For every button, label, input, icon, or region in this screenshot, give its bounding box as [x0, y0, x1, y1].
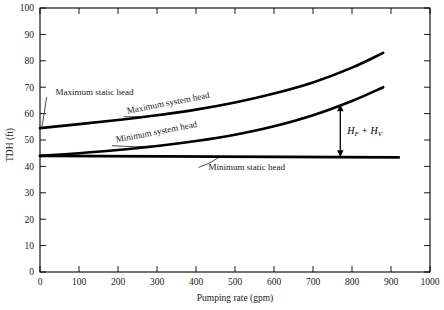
- x-tick-label: 1000: [421, 277, 440, 287]
- y-axis-tick-labels: 0102030405060708090100: [20, 3, 35, 277]
- y-tick-label: 30: [25, 188, 35, 198]
- y-tick-label: 0: [29, 267, 34, 277]
- y-tick-label: 10: [25, 241, 35, 251]
- x-axis-title: Pumping rate (gpm): [197, 293, 274, 304]
- y-tick-label: 70: [25, 83, 35, 93]
- x-tick-label: 900: [384, 277, 399, 287]
- annotation-min-static-head: Minimum static head: [208, 162, 285, 172]
- y-tick-label: 100: [20, 3, 35, 13]
- x-axis-ticks: [40, 266, 430, 272]
- x-tick-label: 700: [306, 277, 321, 287]
- x-tick-label: 100: [72, 277, 87, 287]
- annotation-head-loss: HF + HV: [346, 125, 383, 139]
- x-tick-label: 400: [189, 277, 204, 287]
- x-tick-label: 800: [345, 277, 360, 287]
- y-tick-label: 80: [25, 56, 35, 66]
- leader-max-static-head: [42, 97, 47, 127]
- x-tick-label: 0: [38, 277, 43, 287]
- y-tick-label: 40: [25, 162, 35, 172]
- x-tick-label: 300: [150, 277, 165, 287]
- y-axis-ticks: [40, 8, 46, 272]
- plot-frame: [40, 8, 430, 272]
- chart-annotations: Maximum static headMaximum system headMi…: [42, 87, 383, 172]
- data-curves: [40, 53, 399, 158]
- y-tick-label: 60: [25, 109, 35, 119]
- y-tick-label: 20: [25, 215, 35, 225]
- annotation-min-system-head: Minimum system head: [115, 119, 198, 145]
- x-tick-label: 600: [267, 277, 282, 287]
- chart-figure: 0102030405060708090100 01002003004005006…: [0, 0, 444, 310]
- annotation-max-system-head: Maximum system head: [126, 90, 211, 116]
- x-axis-ticks-top: [40, 8, 430, 14]
- y-tick-label: 90: [25, 30, 35, 40]
- x-tick-label: 500: [228, 277, 243, 287]
- y-axis-title: TDH (ft): [5, 128, 16, 162]
- chart-svg: 0102030405060708090100 01002003004005006…: [0, 0, 444, 310]
- x-tick-label: 200: [111, 277, 126, 287]
- y-tick-label: 50: [25, 135, 35, 145]
- x-axis-tick-labels: 01002003004005006007008009001000: [38, 277, 440, 287]
- annotation-max-static-head: Maximum static head: [56, 87, 134, 97]
- y-axis-ticks-right: [424, 8, 430, 272]
